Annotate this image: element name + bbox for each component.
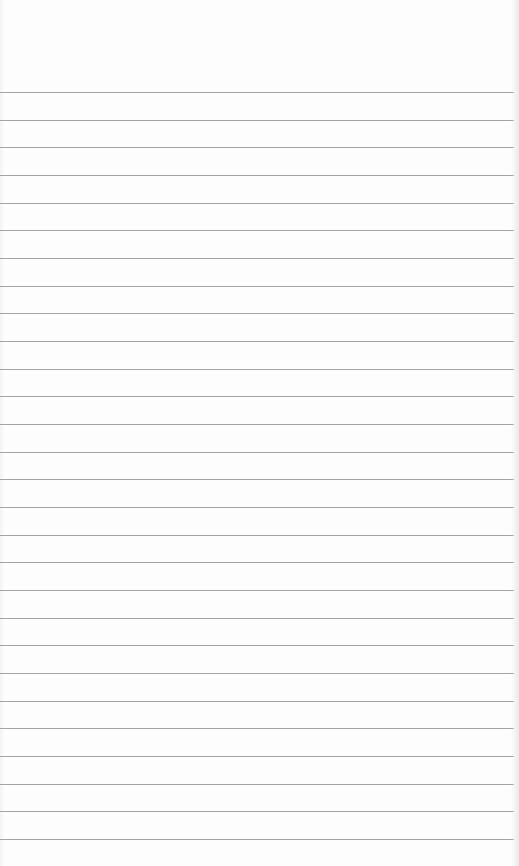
right-edge-shadow — [511, 0, 519, 866]
ruled-line — [0, 535, 514, 536]
ruled-line — [0, 92, 514, 93]
ruled-line — [0, 286, 514, 287]
ruled-line — [0, 120, 514, 121]
ruled-line — [0, 230, 514, 231]
ruled-line — [0, 811, 514, 812]
ruled-line — [0, 147, 514, 148]
ruled-line — [0, 784, 514, 785]
ruled-line — [0, 313, 514, 314]
ruled-line — [0, 369, 514, 370]
ruled-line — [0, 590, 514, 591]
ruled-line — [0, 175, 514, 176]
ruled-line — [0, 479, 514, 480]
ruled-line — [0, 728, 514, 729]
ruled-line — [0, 507, 514, 508]
ruled-line — [0, 341, 514, 342]
ruled-line — [0, 756, 514, 757]
ruled-line — [0, 701, 514, 702]
ruled-line — [0, 645, 514, 646]
ruled-line — [0, 424, 514, 425]
ruled-line — [0, 258, 514, 259]
left-edge-shadow — [0, 0, 4, 866]
ruled-line — [0, 396, 514, 397]
ruled-line — [0, 562, 514, 563]
ruled-line — [0, 452, 514, 453]
ruled-line — [0, 839, 514, 840]
ruled-line — [0, 673, 514, 674]
ruled-paper-sheet — [0, 0, 519, 866]
ruled-line — [0, 618, 514, 619]
ruled-line — [0, 203, 514, 204]
